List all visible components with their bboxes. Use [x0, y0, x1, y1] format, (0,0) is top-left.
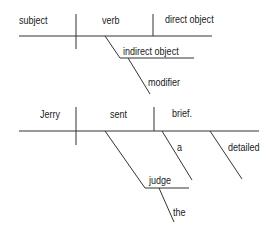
template-verb-label: verb — [102, 14, 120, 26]
example-io-modifier-label: the — [173, 206, 186, 218]
example-indirect-object-label: judge — [149, 174, 171, 186]
sentence-diagram-figure: subject verb direct object indirect obje… — [0, 0, 276, 235]
template-modifier-slant — [128, 58, 150, 94]
example-io-modifier-slant — [159, 188, 174, 222]
example-subject-label: Jerry — [40, 108, 60, 120]
example-direct-object-label: brief. — [172, 107, 192, 119]
example-verb-label: sent — [110, 108, 127, 120]
example-do-modifier-a-slant — [162, 131, 192, 180]
template-indirect-object-label: indirect object — [123, 45, 179, 57]
example-do-modifier-detailed-slant — [210, 131, 242, 179]
template-modifier-label: modifier — [148, 76, 180, 88]
template-indirect-object-slant — [105, 36, 120, 58]
template-direct-object-label: direct object — [165, 13, 214, 25]
example-indirect-object-slant — [105, 131, 145, 188]
template-subject-label: subject — [19, 14, 48, 26]
example-do-modifier-a-label: a — [177, 141, 182, 153]
example-do-modifier-detailed-label: detailed — [228, 141, 260, 153]
